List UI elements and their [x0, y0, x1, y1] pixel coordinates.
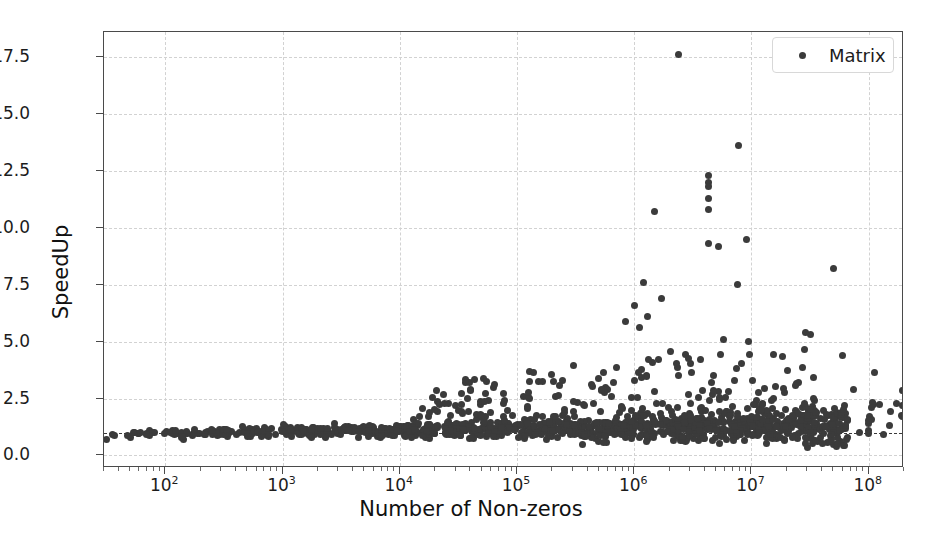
data-point	[536, 421, 543, 428]
data-point	[419, 405, 426, 412]
data-point	[378, 424, 385, 431]
data-point	[871, 369, 878, 376]
data-point	[765, 423, 772, 430]
data-point	[706, 397, 713, 404]
y-tick-mark	[96, 341, 103, 342]
data-point	[828, 431, 835, 438]
data-point	[899, 387, 903, 394]
data-point	[287, 426, 294, 433]
x-tick-mark-minor	[732, 467, 733, 471]
data-point	[481, 398, 488, 405]
data-point	[500, 390, 507, 397]
data-point	[436, 401, 443, 408]
data-point	[731, 377, 738, 384]
data-point	[620, 422, 627, 429]
x-tick-mark-minor	[622, 467, 623, 471]
data-point	[482, 390, 489, 397]
x-tick-mark-minor	[159, 467, 160, 471]
x-tick-mark	[750, 467, 751, 474]
data-point	[741, 437, 748, 444]
data-point	[749, 377, 756, 384]
x-tick-mark-minor	[469, 467, 470, 471]
data-point	[868, 404, 875, 411]
data-point	[831, 405, 838, 412]
data-point	[738, 360, 745, 367]
data-point	[887, 408, 894, 415]
data-point	[725, 388, 732, 395]
x-tick-mark-minor	[628, 467, 629, 471]
data-point	[734, 281, 741, 288]
data-point	[781, 389, 788, 396]
data-point	[317, 425, 324, 432]
data-point	[657, 410, 664, 417]
y-tick-label: 2.5	[0, 388, 30, 408]
data-point	[624, 413, 631, 420]
data-point	[715, 243, 722, 250]
data-point	[191, 426, 198, 433]
x-tick-mark-minor	[276, 467, 277, 471]
x-tick-mark-minor	[381, 467, 382, 471]
legend[interactable]: Matrix	[772, 37, 894, 73]
x-tick-label: 108	[853, 474, 882, 495]
data-point	[664, 428, 671, 435]
data-point	[526, 378, 533, 385]
gridline-vertical	[517, 32, 518, 466]
data-point	[697, 356, 704, 363]
data-point	[723, 427, 730, 434]
x-tick-mark-minor	[256, 467, 257, 471]
y-tick-label: 12.5	[0, 160, 30, 180]
data-point	[423, 428, 430, 435]
x-tick-mark-minor	[821, 467, 822, 471]
data-point	[522, 432, 529, 439]
y-axis-label: SpeedUp	[49, 225, 73, 320]
data-point	[345, 427, 352, 434]
x-tick-mark-minor	[146, 467, 147, 471]
data-point	[511, 426, 518, 433]
data-point	[695, 394, 702, 401]
gridline-vertical	[283, 32, 284, 466]
x-tick-mark-minor	[263, 467, 264, 471]
data-point	[571, 413, 578, 420]
x-tick-mark-minor	[806, 467, 807, 471]
x-tick-mark-minor	[200, 467, 201, 471]
x-tick-mark-minor	[337, 467, 338, 471]
data-point	[500, 413, 507, 420]
data-point	[548, 371, 555, 378]
x-tick-mark-minor	[363, 467, 364, 471]
x-tick-mark-minor	[220, 467, 221, 471]
data-point	[706, 425, 713, 432]
x-tick-mark-minor	[511, 467, 512, 471]
x-tick-mark	[633, 467, 634, 474]
data-point	[600, 369, 607, 376]
data-point	[328, 431, 335, 438]
data-point	[709, 437, 716, 444]
x-tick-mark-minor	[903, 467, 904, 471]
x-tick-mark-minor	[832, 467, 833, 471]
x-tick-mark-minor	[551, 467, 552, 471]
data-point	[761, 385, 768, 392]
data-point	[308, 434, 315, 441]
x-tick-mark-minor	[373, 467, 374, 471]
data-point	[789, 412, 796, 419]
x-tick-mark-minor	[505, 467, 506, 471]
data-point	[447, 412, 454, 419]
data-point	[705, 240, 712, 247]
x-tick-mark-minor	[786, 467, 787, 471]
data-point	[694, 415, 701, 422]
data-point	[471, 376, 478, 383]
data-point	[265, 431, 272, 438]
data-point	[467, 386, 474, 393]
x-tick-label: 105	[502, 474, 531, 495]
x-tick-label: 104	[384, 474, 413, 495]
gridline-horizontal	[104, 228, 902, 229]
x-tick-label: 102	[150, 474, 179, 495]
data-point	[655, 356, 662, 363]
data-point	[759, 401, 766, 408]
x-tick-mark-minor	[598, 467, 599, 471]
data-point	[733, 365, 740, 372]
y-tick-label: 15.0	[0, 103, 30, 123]
data-point	[705, 206, 712, 213]
data-point	[784, 367, 791, 374]
data-point	[749, 422, 756, 429]
data-point	[799, 364, 806, 371]
